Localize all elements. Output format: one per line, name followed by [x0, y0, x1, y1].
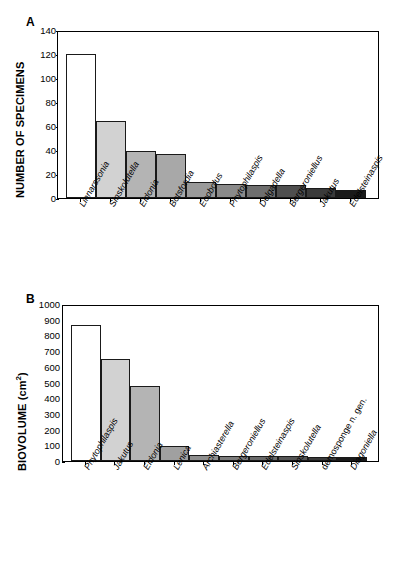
y-tick-label: 100: [44, 442, 60, 452]
y-tick-label: 0: [55, 457, 60, 467]
y-tick-label: 120: [40, 50, 56, 60]
y-tick-label: 40: [45, 146, 56, 156]
y-tick-mark: [56, 199, 59, 200]
y-tick-label: 400: [44, 394, 60, 404]
y-tick-mark: [62, 462, 65, 463]
panel-b-letter: B: [26, 293, 35, 305]
y-tick-label: 500: [44, 379, 60, 389]
panel-a-letter: A: [26, 16, 35, 28]
y-tick-label: 200: [44, 426, 60, 436]
y-tick-label: 100: [40, 74, 56, 84]
panel-a-y-tick-labels: 020406080100120140: [0, 31, 56, 199]
y-tick-label: 600: [44, 363, 60, 373]
y-tick-label: 80: [45, 98, 56, 108]
y-tick-label: 1000: [39, 300, 60, 310]
y-tick-label: 140: [40, 26, 56, 36]
y-tick-label: 800: [44, 332, 60, 342]
panel-a: A NUMBER OF SPECIMENS 020406080100120140…: [0, 0, 397, 285]
y-tick-label: 300: [44, 410, 60, 420]
y-tick-label: 900: [44, 316, 60, 326]
y-tick-label: 60: [45, 122, 56, 132]
y-tick-label: 20: [45, 170, 56, 180]
panel-b: B BIOVOLUME (cm2) 0100200300400500600700…: [0, 285, 397, 569]
figure-specimens-biovolume: A NUMBER OF SPECIMENS 020406080100120140…: [0, 0, 397, 569]
panel-b-y-tick-labels: 01002003004005006007008009001000: [0, 305, 60, 462]
y-tick-label: 700: [44, 347, 60, 357]
